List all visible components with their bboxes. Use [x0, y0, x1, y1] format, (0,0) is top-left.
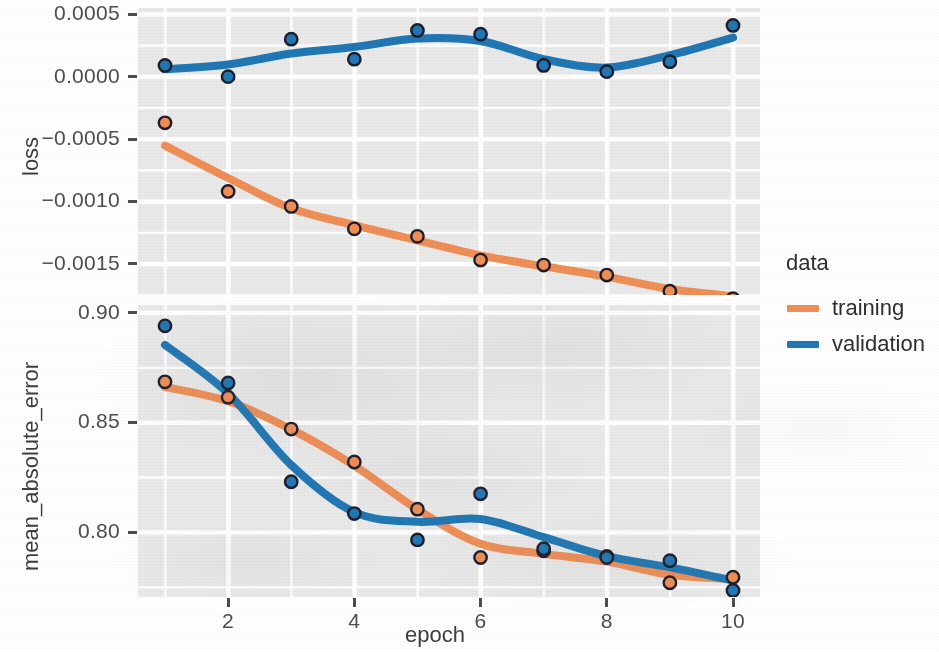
data-point-validation [664, 55, 676, 67]
data-point-validation [159, 59, 171, 71]
data-point-validation [474, 28, 486, 40]
x-tick-mark [479, 598, 482, 607]
data-point-training [411, 503, 423, 515]
y-tick-mark-loss [128, 200, 137, 203]
panel-loss [138, 8, 760, 295]
x-tick-label: 4 [324, 609, 384, 633]
data-point-validation [537, 59, 549, 71]
legend-label: validation [832, 331, 925, 357]
x-tick-mark [605, 598, 608, 607]
data-point-validation [411, 24, 423, 36]
data-point-training [348, 456, 360, 468]
x-tick-label: 10 [703, 609, 763, 633]
data-point-validation [601, 551, 613, 563]
series-line-validation [165, 345, 733, 581]
y-tick-mark-loss [128, 75, 137, 78]
x-axis-title: epoch [405, 622, 465, 648]
data-point-training [727, 293, 739, 295]
y-axis-title-loss: loss [18, 137, 44, 176]
data-point-training [664, 285, 676, 295]
legend: data trainingvalidation [786, 250, 925, 362]
data-point-validation [474, 488, 486, 500]
y-tick-label-loss: 0.0000 [0, 64, 120, 88]
data-point-training [411, 230, 423, 242]
data-point-validation [159, 320, 171, 332]
y-tick-mark-mae [128, 311, 137, 314]
legend-items: trainingvalidation [786, 290, 925, 362]
data-point-training [159, 376, 171, 388]
y-tick-mark-mae [128, 531, 137, 534]
data-point-validation [348, 53, 360, 65]
data-point-training [537, 259, 549, 271]
data-point-validation [537, 543, 549, 555]
y-tick-mark-loss [128, 138, 137, 141]
legend-label: training [832, 295, 904, 321]
legend-key-training-icon [786, 291, 820, 325]
y-axis-title-mae: mean_absolute_error [18, 362, 44, 571]
data-point-validation [727, 584, 739, 596]
data-point-validation [348, 507, 360, 519]
x-tick-label: 8 [577, 609, 637, 633]
series-line-training [165, 146, 733, 295]
loss-plot-layer [138, 8, 760, 295]
x-tick-mark [732, 598, 735, 607]
y-tick-label-loss: −0.0010 [0, 188, 120, 212]
x-tick-mark [227, 598, 230, 607]
data-point-validation [222, 70, 234, 82]
data-point-training [285, 423, 297, 435]
series-line-validation [165, 38, 733, 70]
data-point-training [601, 269, 613, 281]
y-tick-mark-mae [128, 421, 137, 424]
data-point-validation [664, 555, 676, 567]
data-point-validation [285, 33, 297, 45]
y-tick-label-loss: −0.0015 [0, 251, 120, 275]
chart-figure: 0.00050.0000−0.0005−0.0010−0.0015 0.900.… [0, 0, 939, 652]
data-point-training [474, 551, 486, 563]
data-point-validation [727, 19, 739, 31]
x-tick-label: 2 [198, 609, 258, 633]
legend-item-validation[interactable]: validation [786, 326, 925, 362]
data-point-training [474, 254, 486, 266]
y-tick-mark-loss [128, 262, 137, 265]
data-point-validation [411, 534, 423, 546]
data-point-training [727, 571, 739, 583]
data-point-training [348, 223, 360, 235]
data-point-training [222, 391, 234, 403]
data-point-training [285, 200, 297, 212]
legend-title: data [786, 250, 925, 276]
legend-key-validation-icon [786, 327, 820, 361]
panel-mean-absolute-error [138, 305, 760, 597]
y-tick-mark-loss [128, 13, 137, 16]
data-point-training [159, 117, 171, 129]
y-tick-label-loss: 0.0005 [0, 1, 120, 25]
data-point-validation [222, 377, 234, 389]
mae-plot-layer [138, 305, 760, 597]
data-point-validation [285, 476, 297, 488]
y-tick-label-mae: 0.90 [0, 300, 120, 324]
data-point-training [222, 185, 234, 197]
x-tick-mark [353, 598, 356, 607]
data-point-training [664, 577, 676, 589]
legend-item-training[interactable]: training [786, 290, 925, 326]
data-point-validation [601, 65, 613, 77]
